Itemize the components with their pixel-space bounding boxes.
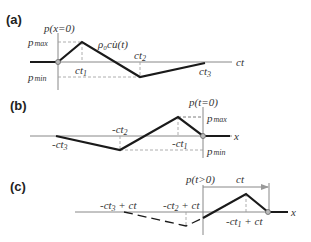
panel-b-origin-marker [201,134,206,139]
panel-a-tick-ct2: ct2 [134,49,146,63]
panel-a-label: (a) [6,12,22,27]
panel-b-horizontal-axis-label: x [233,130,239,142]
panel-a: (a) p(x=0) ct pmax pmin ρ₀cu̇(t) ct1 ct2… [6,12,245,90]
panel-c-tick-ct2: -ct2 + ct [163,199,200,213]
panel-a-horizontal-axis-label: ct [236,56,245,68]
pressure-wave-diagram: (a) p(x=0) ct pmax pmin ρ₀cu̇(t) ct1 ct2… [0,0,311,242]
panel-c-shift-label: ct [236,173,245,185]
panel-b-tick-ct2: -ct2 [112,123,128,137]
panel-a-vertical-axis-label: p(x=0) [43,22,75,35]
panel-b-pmin-label: pmin [206,145,226,157]
panel-c-horizontal-axis-label: x [290,206,296,218]
panel-b-tick-ct1: -ct1 [172,137,188,151]
panel-a-slope-label: ρ₀cu̇(t) [97,38,128,51]
panel-b-pmax-label: pmax [206,112,227,124]
panel-c-vertical-axis-label: p(t>0) [185,173,215,186]
panel-c-label: (c) [10,179,26,194]
panel-c-past-wave-dashed [124,212,203,226]
panel-b-label: (b) [10,98,27,113]
panel-c-wavefront-marker [266,210,271,215]
panel-c-tick-ct3: -ct3 + ct [100,199,137,213]
panel-a-tick-ct3: ct3 [199,65,211,79]
panel-b: (b) p(t=0) x pmax pmin -ct3 -ct2 -ct1 [10,96,239,158]
panel-a-pmin-label: pmin [27,71,47,83]
panel-b-vertical-axis-label: p(t=0) [188,96,218,109]
panel-a-origin-marker [56,60,61,65]
panel-c: (c) p(t>0) x ct -ct3 + ct -ct2 + ct -ct1… [10,173,296,235]
panel-c-tick-ct1: -ct1 + ct [226,215,263,229]
panel-a-pmax-label: pmax [27,36,48,48]
panel-b-tick-ct3: -ct3 [52,138,68,152]
panel-a-tick-ct1: ct1 [75,64,87,78]
